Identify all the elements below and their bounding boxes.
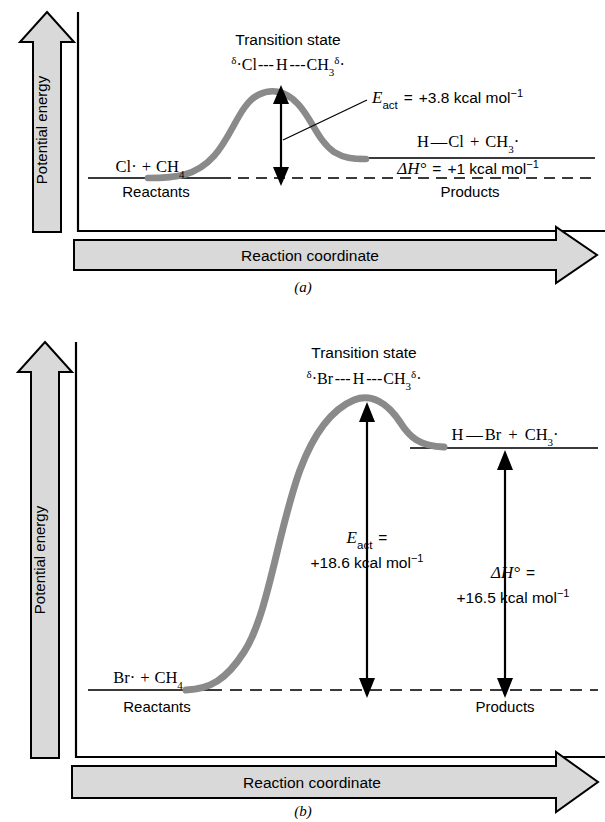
products-label: Products [440,183,499,200]
prod-dot: · [514,132,520,151]
svg-text:+18.6 kcal mol−1: +18.6 kcal mol−1 [311,552,424,571]
reaction-energy-diagram-panel-b: Potential energy Transition state δ·Br--… [0,300,605,822]
products-label: Products [475,698,534,715]
ts-link-2: --- [289,56,305,73]
reactants-label: Reactants [123,698,191,715]
ts-dot-right: · [339,56,344,73]
x-axis-arrow: Reaction coordinate [74,227,597,283]
x-axis-label: Reaction coordinate [241,247,379,264]
dh-equals: = [432,160,441,177]
svg-text:H—Cl+CH3·: H—Cl+CH3· [417,132,519,155]
transition-state-title: Transition state [311,344,416,361]
dh-symbol: ΔH° [396,159,426,178]
svg-text:ΔH°=: ΔH°= [490,563,535,582]
transition-state-formula: δ·Br---H---CH3δ· [307,368,422,392]
ts-atom-3: CH [306,56,329,73]
ts-atom-3: CH [383,370,406,387]
x-axis-arrow: Reaction coordinate [72,752,598,812]
svg-text:Br·+CH4: Br·+CH4 [113,668,183,691]
transition-state-formula: δ·Cl---H---CH3δ· [231,54,344,78]
ts-atom-3-sub: 3 [329,66,335,78]
eact-symbol: E [371,88,383,107]
eact-equals: = [378,529,387,546]
ts-link-1: --- [335,370,351,387]
eact-equals: = [404,89,413,106]
y-axis-label: Potential energy [31,505,48,614]
eact-exponent: −1 [511,87,524,99]
eact-symbol: E [346,528,358,547]
react-atom: Cl [116,157,132,176]
ts-link-1: --- [258,56,274,73]
react-molecule: CH [154,668,177,687]
svg-text:Eact=+3.8 kcal mol−1: Eact=+3.8 kcal mol−1 [371,87,523,111]
react-dot: · [130,668,136,687]
react-dot: · [131,157,137,176]
svg-text:+16.5 kcal mol−1: +16.5 kcal mol−1 [457,587,570,606]
prod-molecule: CH [525,425,548,444]
y-axis-label: Potential energy [33,75,50,184]
svg-text:δ·Cl---H---CH3δ·: δ·Cl---H---CH3δ· [231,54,344,78]
react-sub: 4 [179,168,185,180]
ts-atom-3-sub: 3 [405,380,411,392]
prod-bond: — [465,425,483,444]
dh-value: +1 kcal mol [447,160,526,177]
ts-link-2: --- [366,370,382,387]
dh-value: +16.5 kcal mol [457,589,557,606]
eact-exponent: −1 [411,552,424,564]
react-atom: Br [113,668,130,687]
eact-arrow [273,85,289,186]
delta-h-label: ΔH°=+1 kcal mol−1 [396,158,539,178]
eact-subscript: act [382,99,398,111]
eact-label: Eact=+3.8 kcal mol−1 [371,87,523,111]
prod-molecule: CH [485,132,508,151]
ts-atom-2: H [276,56,288,73]
energy-curve [148,91,366,178]
react-plus: + [140,668,149,687]
react-sub: 4 [177,679,183,691]
prod-plus: + [470,132,479,151]
y-axis-arrow: Potential energy [20,12,74,232]
ts-dot-right: · [416,370,421,387]
ts-atom-1: Cl [242,56,258,73]
transition-state-title: Transition state [235,31,340,48]
y-axis-arrow: Potential energy [18,342,72,758]
products-formula: H—Cl+CH3· [417,132,519,155]
prod-atom-1: H [417,132,429,151]
prod-atom-2: Cl [448,132,464,151]
prod-atom-2: Br [485,425,502,444]
eact-subscript: act [357,539,373,551]
reaction-energy-diagram-panel-a: Potential energy Transition state δ·Cl--… [0,0,605,300]
ts-atom-1: Br [317,370,334,387]
prod-plus: + [508,425,517,444]
react-molecule: CH [156,157,179,176]
energy-curve [186,398,444,690]
reactants-label: Reactants [122,183,190,200]
prod-atom-1: H [451,425,463,444]
panel-caption-b: (b) [294,803,312,820]
reactants-formula: Br·+CH4 [113,668,183,691]
dh-symbol: ΔH° [490,563,520,582]
svg-text:ΔH°=+1 kcal mol−1: ΔH°=+1 kcal mol−1 [396,158,539,178]
products-formula: H—Br+CH3· [451,425,558,448]
dh-exponent: −1 [526,158,539,170]
dh-exponent: −1 [557,587,570,599]
ts-atom-2: H [353,370,365,387]
delta-h-label: ΔH°= +16.5 kcal mol−1 [457,563,570,606]
dh-equals: = [526,564,535,581]
eact-value: +3.8 kcal mol [419,89,511,106]
panel-caption-a: (a) [294,279,312,296]
svg-text:H—Br+CH3·: H—Br+CH3· [451,425,558,448]
prod-dot: · [553,425,559,444]
react-plus: + [142,157,151,176]
eact-value: +18.6 kcal mol [311,554,411,571]
svg-text:δ·Br---H---CH3δ·: δ·Br---H---CH3δ· [307,368,422,392]
x-axis-label: Reaction coordinate [243,774,381,791]
prod-bond: — [430,132,448,151]
